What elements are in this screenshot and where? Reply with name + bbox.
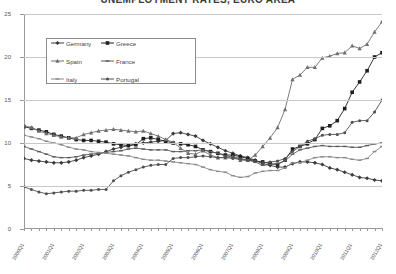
data-point [127, 148, 131, 149]
x-tick-mark [99, 228, 100, 231]
data-point [343, 146, 347, 147]
data-point [186, 132, 190, 136]
data-point [24, 156, 26, 160]
data-point [82, 189, 85, 192]
data-point [328, 166, 332, 170]
data-point [276, 160, 279, 163]
data-point [82, 156, 86, 160]
data-point [127, 144, 131, 148]
data-point [106, 41, 110, 45]
data-point [291, 162, 295, 163]
x-tick-mark [76, 228, 77, 231]
x-tick-mark [91, 228, 92, 231]
data-point [246, 176, 250, 177]
data-point [216, 153, 220, 154]
data-point [321, 127, 325, 131]
x-tick-mark [106, 228, 107, 231]
data-point [261, 165, 265, 166]
data-point [171, 151, 175, 152]
data-point [358, 175, 362, 179]
legend-item-france[interactable]: France [100, 52, 150, 70]
data-point [171, 161, 175, 162]
data-point [44, 160, 48, 164]
data-point [52, 191, 55, 194]
x-tick-mark [300, 228, 301, 231]
data-point [335, 168, 339, 172]
legend-item-italy[interactable]: Italy [50, 70, 100, 88]
data-point [223, 149, 227, 153]
legend-marker-icon [100, 38, 115, 48]
data-point [209, 151, 213, 152]
gridline [24, 100, 382, 101]
data-point [358, 80, 362, 84]
legend-marker-icon [50, 38, 65, 48]
legend-marker-icon [100, 74, 115, 84]
x-tick-label: 2012Q1 [369, 242, 383, 261]
data-point [283, 160, 287, 161]
data-point [82, 149, 86, 150]
data-point [261, 171, 265, 172]
x-tick-mark [382, 228, 383, 231]
x-tick-mark [114, 228, 115, 231]
data-point [164, 149, 168, 150]
x-tick-mark [173, 228, 174, 231]
data-point [106, 78, 109, 81]
x-tick-mark [128, 228, 129, 231]
data-point [106, 60, 110, 61]
gridline [24, 186, 382, 187]
data-point [380, 20, 382, 24]
data-point [45, 192, 48, 195]
data-point [358, 147, 362, 148]
data-point [372, 178, 376, 182]
data-point [239, 158, 242, 161]
legend-item-germany[interactable]: Germany [50, 34, 100, 52]
x-tick-mark [255, 228, 256, 231]
data-point [74, 158, 78, 162]
data-point [111, 147, 115, 151]
x-tick-label: 2010Q1 [309, 242, 323, 261]
x-tick-mark [54, 228, 55, 231]
gridline [24, 143, 382, 144]
x-tick-label: 2011Q1 [339, 242, 353, 261]
data-point [231, 175, 235, 176]
data-point [157, 163, 160, 166]
series-france [24, 142, 382, 166]
data-point [59, 144, 63, 145]
legend-marker-icon [50, 74, 65, 84]
data-point [231, 157, 234, 160]
data-point [37, 191, 40, 194]
data-point [283, 107, 287, 111]
y-tick-mark [20, 186, 24, 187]
x-tick-label: 2004Q1 [130, 242, 144, 261]
legend-item-portugal[interactable]: Portugal [100, 70, 150, 88]
data-point [127, 171, 130, 174]
x-tick-mark [121, 228, 122, 231]
data-point [328, 156, 332, 157]
legend-item-spain[interactable]: Spain [50, 52, 100, 70]
data-point [335, 119, 339, 123]
y-tick-label: 20 [0, 54, 11, 60]
y-tick-label: 15 [0, 97, 11, 103]
data-point [186, 150, 190, 151]
x-tick-mark [285, 228, 286, 231]
chart-container: UNEMPLOYMENT RATES, EURO AREA GermanyGre… [0, 0, 396, 274]
data-point [216, 156, 219, 159]
data-point [67, 160, 71, 164]
data-point [56, 78, 60, 79]
legend-label: Italy [66, 76, 77, 83]
data-point [320, 162, 324, 166]
data-point [90, 189, 93, 192]
x-tick-mark [360, 228, 361, 231]
data-point [149, 164, 152, 167]
x-tick-mark [375, 228, 376, 231]
data-point [119, 150, 123, 151]
legend-label: France [116, 58, 135, 65]
data-point [343, 170, 347, 174]
legend-label: Spain [66, 58, 82, 65]
data-point [269, 160, 272, 163]
legend-item-greece[interactable]: Greece [100, 34, 150, 52]
x-tick-mark [84, 228, 85, 231]
data-point [358, 119, 361, 122]
data-point [52, 161, 56, 165]
data-point [268, 170, 272, 171]
